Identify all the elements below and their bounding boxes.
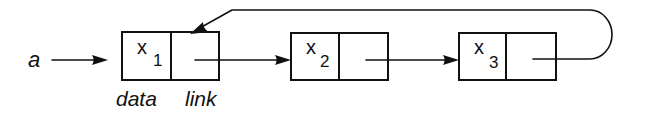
node-3-subscript: 3 [489, 53, 498, 72]
node-3: x 3 [459, 33, 556, 80]
node-1-subscript: 1 [153, 51, 162, 70]
field-label-data: data [116, 87, 157, 110]
node-3-data: x [474, 36, 484, 58]
pointer-arrow [52, 55, 108, 65]
node-2-subscript: 2 [320, 52, 329, 71]
node-2: x 2 [291, 33, 388, 80]
linked-list-diagram: a x 1 x 2 x 3 data link [0, 0, 646, 117]
node-2-data: x [306, 36, 316, 58]
pointer-label-a: a [28, 47, 40, 72]
node-1-data: x [137, 36, 147, 58]
node-1: x 1 [122, 32, 219, 80]
field-label-link: link [185, 87, 218, 110]
